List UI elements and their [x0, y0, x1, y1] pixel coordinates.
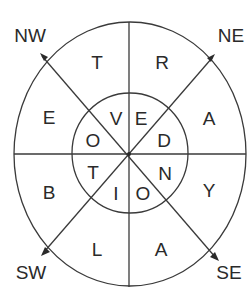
letter-wheel-diagram: NW NE SW SE T R A Y A L B E V E D N O I … — [0, 0, 251, 292]
arrow-ne-icon — [207, 54, 215, 62]
outer-letter-bottom-left: L — [92, 239, 103, 260]
inner-letter-bottom-right: O — [136, 183, 151, 204]
inner-letter-left-upper: O — [86, 130, 101, 151]
inner-letter-right-lower: N — [158, 163, 172, 184]
inner-letter-top-right: E — [135, 108, 148, 129]
outer-letter-right-lower: Y — [203, 180, 216, 201]
direction-label-sw: SW — [16, 262, 47, 283]
direction-label-nw: NW — [14, 25, 46, 46]
inner-letter-right-upper: D — [157, 130, 171, 151]
outer-letter-left-lower: B — [43, 182, 56, 203]
inner-letter-bottom-left: I — [113, 183, 118, 204]
outer-letter-top-left: T — [91, 52, 103, 73]
outer-letter-top-right: R — [155, 52, 169, 73]
direction-label-ne: NE — [218, 25, 244, 46]
center-dot — [127, 152, 131, 156]
outer-letter-right-upper: A — [203, 108, 216, 129]
inner-letter-top-left: V — [110, 108, 123, 129]
arrow-nw-icon — [40, 53, 48, 61]
inner-letter-left-lower: T — [87, 162, 99, 183]
outer-letter-left-upper: E — [43, 107, 56, 128]
outer-letter-bottom-right: A — [155, 239, 168, 260]
direction-label-se: SE — [216, 262, 241, 283]
